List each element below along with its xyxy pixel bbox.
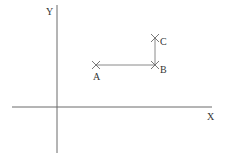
coordinate-diagram: Y X A B C [0,0,229,166]
point-c: C [151,34,167,47]
point-b: B [151,61,167,75]
x-axis-label: X [207,111,215,122]
point-a-label: A [93,71,101,82]
point-c-label: C [160,36,167,47]
point-a: A [92,61,101,82]
y-axis-label: Y [46,6,53,17]
point-b-label: B [160,64,167,75]
